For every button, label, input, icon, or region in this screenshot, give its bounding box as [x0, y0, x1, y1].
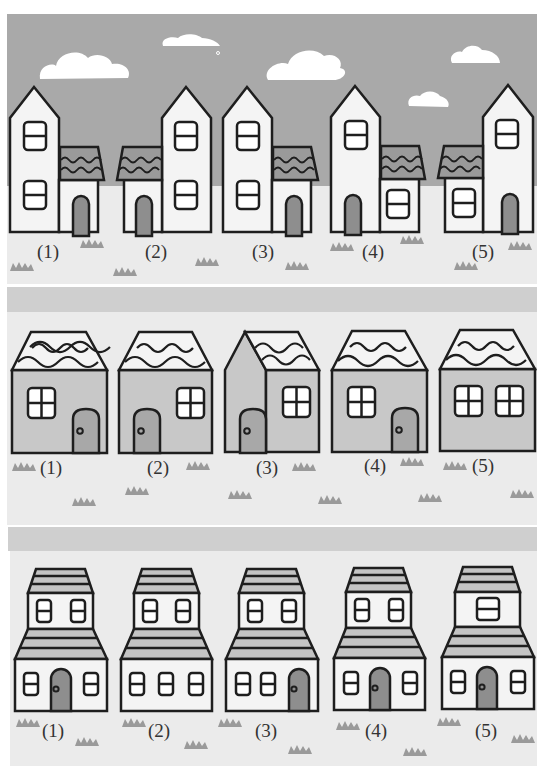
house-3-2[interactable]	[121, 569, 212, 711]
label-5: (5)	[475, 720, 497, 742]
section-2: (1) (2) (3) (4) (5)	[7, 312, 537, 525]
house-2-2[interactable]	[119, 332, 212, 453]
label-4: (4)	[364, 455, 386, 477]
section-1: (1) (2) (3) (4) (5)	[7, 14, 537, 284]
house-3-3[interactable]	[226, 569, 318, 711]
section-3: (1) (2) (3) (4) (5)	[10, 551, 537, 766]
puzzle-illustration: (1) (2) (3) (4) (5)	[0, 0, 544, 775]
label-2: (2)	[145, 241, 167, 263]
label-3: (3)	[256, 457, 278, 479]
label-1: (1)	[37, 241, 59, 263]
label-4: (4)	[362, 241, 384, 263]
label-2: (2)	[147, 457, 169, 479]
house-2-1[interactable]	[12, 332, 110, 453]
house-2-5[interactable]	[440, 330, 535, 451]
label-2: (2)	[148, 720, 170, 742]
label-3: (3)	[255, 720, 277, 742]
road-divider	[8, 527, 537, 551]
house-3-4[interactable]	[334, 568, 425, 710]
label-1: (1)	[42, 720, 64, 742]
label-4: (4)	[365, 720, 387, 742]
road-divider	[7, 287, 537, 312]
house-2-4[interactable]	[332, 331, 427, 452]
house-2-3[interactable]	[225, 332, 319, 453]
label-1: (1)	[40, 457, 62, 479]
label-5: (5)	[472, 241, 494, 263]
house-3-1[interactable]	[15, 569, 107, 711]
label-5: (5)	[472, 455, 494, 477]
label-3: (3)	[252, 241, 274, 263]
